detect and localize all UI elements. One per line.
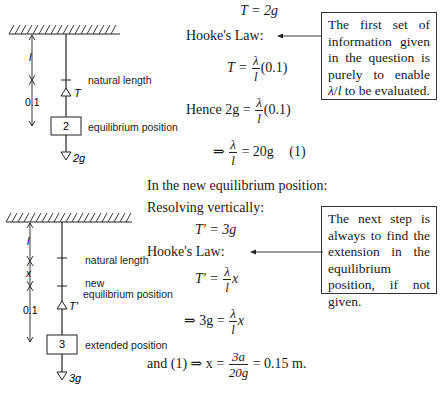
note-box-1: The first set of information given in th… bbox=[321, 12, 437, 100]
weight-arrow-icon bbox=[57, 372, 67, 380]
tension-arrow-icon bbox=[57, 301, 67, 309]
svg-text:x: x bbox=[25, 268, 32, 279]
svg-text:2g: 2g bbox=[72, 152, 86, 164]
svg-text:2: 2 bbox=[63, 120, 69, 132]
svg-text:3g: 3g bbox=[69, 372, 82, 384]
svg-text:3: 3 bbox=[59, 338, 65, 350]
weight-arrow-icon bbox=[61, 152, 71, 160]
new-equilibrium-position-label: equilibrium position bbox=[83, 289, 173, 300]
eq-hooke-2: T' = λlx bbox=[195, 265, 238, 294]
pointer-arrow-2 bbox=[250, 247, 324, 257]
hookes-law-heading-2: Hooke's Law: bbox=[147, 244, 225, 260]
svg-text:0.1: 0.1 bbox=[25, 96, 40, 108]
svg-text:T': T' bbox=[69, 300, 79, 312]
dimension-arrows bbox=[29, 35, 35, 126]
hookes-law-heading-1: Hooke's Law: bbox=[186, 28, 264, 44]
eq-tension-2g: T = 2g bbox=[240, 3, 278, 19]
pointer-arrow-1 bbox=[277, 31, 323, 41]
natural-length-label-2: natural length bbox=[85, 254, 149, 266]
transition-text: In the new equilibrium position: bbox=[147, 178, 327, 194]
eq-final-x: and (1) ⇒ x = 3a20g = 0.15 m. bbox=[147, 350, 306, 379]
svg-text:T: T bbox=[74, 87, 82, 99]
eq-tension-3g: T' = 3g bbox=[195, 222, 236, 238]
eq-hooke-1: T = λl(0.1) bbox=[227, 54, 287, 83]
resolving-heading: Resolving vertically: bbox=[147, 200, 264, 216]
note-box-2: The next step is always to find the exte… bbox=[321, 206, 437, 294]
eq-3g: ⇒ 3g = λlx bbox=[184, 307, 244, 336]
equilibrium-position-label: equilibrium position bbox=[88, 121, 178, 133]
natural-length-label: natural length bbox=[88, 74, 152, 86]
eq-lambda-over-l: ⇒ λl = 20g (1) bbox=[213, 138, 306, 167]
svg-text:0.1: 0.1 bbox=[23, 304, 38, 316]
ceiling-hatch bbox=[9, 25, 120, 34]
eq-hence: Hence 2g = λl(0.1) bbox=[186, 96, 291, 125]
tension-arrow-icon bbox=[61, 88, 71, 96]
ceiling-hatch bbox=[6, 213, 132, 222]
